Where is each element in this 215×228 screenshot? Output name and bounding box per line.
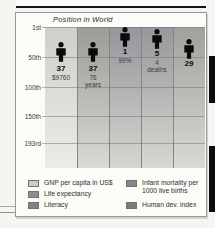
rank-value: 37 [45, 65, 77, 73]
rank-value: 37 [77, 65, 109, 73]
legend-label: Human dev. index [142, 201, 196, 209]
y-tick-label: 150th [12, 113, 41, 120]
y-tick-label: 100th [12, 84, 41, 91]
legend-swatch [28, 191, 39, 198]
rank-value: 1 [109, 48, 141, 56]
chart-column-gnp-overlay: 37 $9760 [45, 27, 77, 168]
rank-sublabel: $9760 [49, 74, 73, 81]
rank-value: 5 [141, 50, 173, 58]
chart-panel: Position in World 1st 50th 100th 150th 1… [15, 12, 207, 217]
person-icon [55, 42, 68, 62]
legend-label: Literacy [44, 201, 68, 209]
y-tick-label: 193rd [12, 140, 41, 147]
person-icon [119, 27, 132, 47]
rank-sublabel: 4 deaths [145, 59, 169, 73]
legend-label: Life expectancy [44, 190, 91, 198]
legend-swatch [28, 202, 39, 209]
page-element-above-edge [16, 0, 206, 8]
person-icon [151, 29, 164, 49]
chart-column-infant-mortality-overlay: 5 4 deaths [141, 27, 173, 168]
rank-sublabel: 76 years [81, 74, 105, 88]
legend-label: GNP per capita in US$ [44, 179, 113, 187]
person-icon [183, 39, 196, 59]
legend-item-infant-mortality: Infant mortality per 1000 live births [126, 179, 214, 194]
rank-value: 29 [173, 60, 205, 68]
legend-item-human-dev-index: Human dev. index [126, 201, 196, 209]
legend-item-literacy: Literacy [28, 201, 68, 209]
chart-column-human-dev-index-overlay: 29 [173, 27, 205, 168]
plot-area: 1st 50th 100th 150th 193rd 37 $9760 37 7… [45, 27, 205, 168]
legend: GNP per capita in US$ Life expectancy Li… [28, 179, 206, 213]
legend-swatch [28, 180, 39, 187]
legend-item-life-expectancy: Life expectancy [28, 190, 91, 198]
person-icon [87, 42, 100, 62]
rank-sublabel: 99% [113, 57, 137, 64]
legend-label: Infant mortality per 1000 live births [142, 179, 214, 194]
chart-title: Position in World [53, 15, 113, 24]
legend-swatch [126, 202, 137, 209]
y-tick-label: 1st [12, 24, 41, 31]
chart-column-literacy-overlay: 1 99% [109, 27, 141, 168]
chart-column-life-expectancy-overlay: 37 76 years [77, 27, 109, 168]
page-margin-black-bar [209, 56, 215, 103]
legend-swatch [126, 180, 137, 187]
y-tick-label: 50th [12, 54, 41, 61]
legend-item-gnp: GNP per capita in US$ [28, 179, 113, 187]
